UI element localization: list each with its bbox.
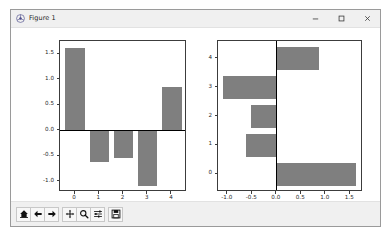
plot-area-left — [60, 41, 185, 190]
y-tick-mark — [215, 86, 218, 87]
x-tick-label: 0.0 — [271, 195, 280, 201]
x-tick-label: 0 — [72, 195, 76, 201]
back-arrow-icon[interactable] — [30, 207, 45, 222]
minimize-button[interactable] — [302, 10, 328, 27]
maximize-button[interactable] — [328, 10, 354, 27]
y-tick-mark — [57, 104, 60, 105]
x-tick-label: 1 — [96, 195, 100, 201]
y-tick-mark — [215, 115, 218, 116]
y-tick-mark — [215, 144, 218, 145]
bar — [114, 131, 133, 158]
bar — [223, 76, 276, 99]
y-tick-label: 1 — [199, 142, 212, 148]
x-tick-label: 2 — [121, 195, 125, 201]
figure-window: Figure 1 1.51.00.50.0-0.5-1.001234 01234… — [10, 9, 381, 227]
y-tick-label: 1.5 — [35, 50, 54, 56]
y-tick-mark — [57, 155, 60, 156]
x-tick-label: 1.0 — [320, 195, 329, 201]
plot-area-right — [218, 41, 361, 190]
bar — [162, 87, 181, 131]
y-tick-label: 0.0 — [35, 127, 54, 133]
y-tick-label: 0.5 — [35, 101, 54, 107]
x-tick-label: 0.5 — [296, 195, 305, 201]
y-tick-label: 4 — [199, 55, 212, 61]
bar — [251, 105, 277, 128]
bar — [90, 131, 109, 163]
axes-horizontal-bar[interactable] — [217, 40, 362, 191]
y-tick-mark — [215, 173, 218, 174]
window-title: Figure 1 — [29, 15, 56, 22]
bar — [65, 48, 84, 131]
y-tick-mark — [57, 129, 60, 130]
pan-move-icon[interactable] — [62, 207, 77, 222]
x-tick-label: 1.5 — [345, 195, 354, 201]
matplotlib-logo-icon — [16, 14, 25, 23]
y-tick-label: -0.5 — [35, 152, 54, 158]
y-tick-label: 2 — [199, 113, 212, 119]
zoom-magnifier-icon[interactable] — [76, 207, 91, 222]
y-tick-label: -1.0 — [35, 178, 54, 184]
y-tick-mark — [57, 180, 60, 181]
figure-canvas[interactable]: 1.51.00.50.0-0.5-1.001234 01234-1.0-0.50… — [11, 28, 380, 201]
bar — [277, 163, 356, 186]
bar — [138, 131, 157, 187]
window-controls — [302, 10, 380, 27]
subplot-sliders-icon[interactable] — [90, 207, 105, 222]
zero-line — [276, 41, 277, 190]
axes-vertical-bar[interactable] — [59, 40, 186, 191]
forward-arrow-icon[interactable] — [44, 207, 59, 222]
bar — [277, 47, 319, 70]
home-icon[interactable] — [16, 207, 31, 222]
bar — [246, 134, 276, 157]
y-tick-label: 3 — [199, 84, 212, 90]
zero-line — [60, 130, 185, 131]
y-tick-label: 0 — [199, 170, 212, 176]
x-tick-label: -1.0 — [221, 195, 232, 201]
x-tick-label: 3 — [145, 195, 149, 201]
y-tick-label: 1.0 — [35, 76, 54, 82]
close-button[interactable] — [354, 10, 380, 27]
save-floppy-icon[interactable] — [108, 207, 123, 222]
y-tick-mark — [215, 57, 218, 58]
x-tick-label: -0.5 — [246, 195, 257, 201]
window-titlebar: Figure 1 — [11, 10, 380, 28]
x-tick-label: 4 — [169, 195, 173, 201]
y-tick-mark — [57, 78, 60, 79]
navigation-toolbar — [11, 201, 380, 226]
y-tick-mark — [57, 53, 60, 54]
